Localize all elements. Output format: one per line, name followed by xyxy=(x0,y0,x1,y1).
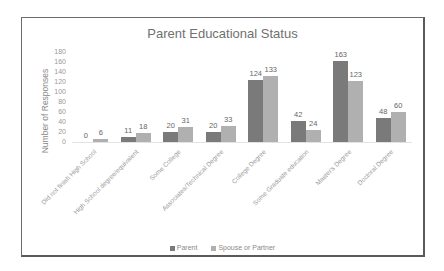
legend-swatch-icon xyxy=(170,246,175,251)
x-tick-label: Some College xyxy=(148,148,182,182)
y-tick-label: 100 xyxy=(50,88,66,95)
bar-parent xyxy=(248,80,263,142)
data-label: 163 xyxy=(329,50,353,59)
x-tick-label: Master's Degree xyxy=(314,148,353,187)
legend-swatch-icon xyxy=(211,246,216,251)
bar-parent xyxy=(376,118,391,142)
bar-spouse xyxy=(348,81,363,143)
data-label: 33 xyxy=(216,115,240,124)
bar-spouse xyxy=(391,112,406,142)
y-tick-label: 140 xyxy=(50,68,66,75)
plot-area: 0611182031203312413342241631234860 xyxy=(72,52,412,142)
data-label: 123 xyxy=(344,70,368,79)
data-label: 6 xyxy=(89,128,113,137)
x-tick-label: Doctoral Degree xyxy=(356,148,394,186)
legend-label: Parent xyxy=(177,244,198,251)
y-tick-label: 0 xyxy=(50,138,66,145)
bar-spouse xyxy=(221,126,236,143)
data-label: 18 xyxy=(131,122,155,131)
bar-spouse xyxy=(263,76,278,143)
bar-spouse xyxy=(306,130,321,142)
legend-label: Spouse or Partner xyxy=(218,244,275,251)
x-axis-line xyxy=(72,142,412,143)
y-tick-label: 40 xyxy=(50,118,66,125)
data-label: 31 xyxy=(174,116,198,125)
bar-spouse xyxy=(178,127,193,143)
y-tick-label: 20 xyxy=(50,128,66,135)
bar-parent xyxy=(206,132,221,142)
y-tick-label: 80 xyxy=(50,98,66,105)
data-label: 24 xyxy=(301,119,325,128)
y-tick-label: 160 xyxy=(50,58,66,65)
data-label: 42 xyxy=(286,110,310,119)
data-label: 60 xyxy=(386,101,410,110)
bar-spouse xyxy=(136,133,151,142)
data-label: 133 xyxy=(259,65,283,74)
y-tick-label: 60 xyxy=(50,108,66,115)
bar-parent xyxy=(163,132,178,142)
x-tick-label: College Degree xyxy=(230,148,267,185)
chart-title: Parent Educational Status xyxy=(22,26,423,41)
legend: Parent Spouse or Partner xyxy=(22,244,423,251)
y-tick-label: 180 xyxy=(50,48,66,55)
chart-frame: Parent Educational Status Number of Resp… xyxy=(21,17,425,257)
y-tick-label: 120 xyxy=(50,78,66,85)
legend-item-spouse: Spouse or Partner xyxy=(211,244,275,251)
y-axis-label: Number of Responses xyxy=(40,66,50,156)
legend-item-parent: Parent xyxy=(170,244,198,251)
